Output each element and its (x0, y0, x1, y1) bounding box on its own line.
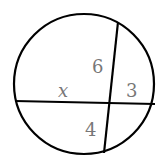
horizontal-chord (15, 101, 155, 104)
chord-diagram: x 6 3 4 (0, 0, 167, 165)
label-three: 3 (126, 80, 137, 101)
vertical-chord (104, 22, 118, 153)
label-x: x (58, 80, 68, 101)
label-four: 4 (85, 119, 96, 140)
label-six: 6 (92, 56, 103, 77)
